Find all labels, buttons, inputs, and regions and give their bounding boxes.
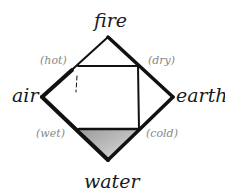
quality-label-dry: (dry) <box>148 55 175 66</box>
element-label-earth: earth <box>176 86 225 105</box>
element-label-air: air <box>12 86 39 105</box>
quality-label-hot: (hot) <box>40 55 67 66</box>
quality-label-wet: (wet) <box>36 128 65 139</box>
element-label-water: water <box>84 172 140 191</box>
inner-square <box>76 66 139 129</box>
water-shaded-region <box>79 129 139 160</box>
element-label-fire: fire <box>94 11 127 30</box>
quality-label-cold: (cold) <box>146 128 178 139</box>
